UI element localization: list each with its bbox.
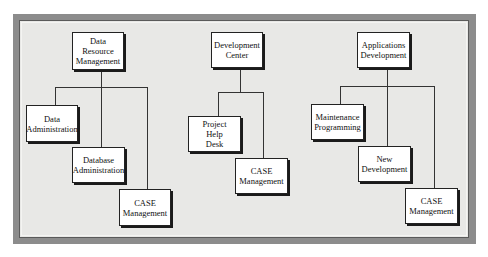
connector-ad-right [434,86,435,188]
box-label: Project Help Desk [202,119,226,149]
box-development-center[interactable]: Development Center [211,32,263,68]
connector-dc-trunk [240,68,241,92]
connector-dc-left [218,92,219,116]
box-applications-development[interactable]: Applications Development [357,32,410,68]
connector-drm-left [55,87,56,105]
connector-ad-bar [340,86,435,87]
box-label: CASE Management [409,196,453,216]
box-label: Maintenance Programming [314,112,361,132]
box-label: Applications Development [361,40,407,60]
connector-ad-left [340,86,341,104]
box-label: Data Administration [26,114,77,134]
box-label: Development Center [214,40,260,60]
box-data-resource-management[interactable]: Data Resource Management [72,32,124,70]
connector-dc-right [263,92,264,158]
box-label: New Development [362,154,408,174]
connector-dc-bar [218,92,264,93]
box-maintenance-programming[interactable]: Maintenance Programming [311,104,364,140]
box-case-management-2[interactable]: CASE Management [235,158,288,194]
box-label: CASE Management [239,166,283,186]
connector-drm-trunk [101,70,102,147]
box-project-help-desk[interactable]: Project Help Desk [188,116,241,152]
box-case-management-3[interactable]: CASE Management [405,188,458,224]
box-label: CASE Management [123,198,167,218]
box-label: Database Administration [73,155,124,175]
connector-ad-trunk [387,68,388,146]
connector-drm-bar [55,87,148,88]
box-label: Data Resource Management [76,36,120,66]
box-database-administration[interactable]: Database Administration [72,147,125,183]
connector-drm-right [147,87,148,189]
box-new-development[interactable]: New Development [358,146,411,182]
box-data-administration[interactable]: Data Administration [26,105,78,142]
box-case-management-1[interactable]: CASE Management [119,189,171,226]
